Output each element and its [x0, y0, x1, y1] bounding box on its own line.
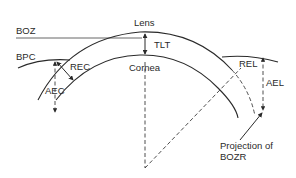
label-ael: AEL	[266, 77, 284, 88]
label-aec: AEC	[45, 85, 65, 96]
label-lens: Lens	[134, 17, 155, 28]
label-tlt: TLT	[154, 39, 170, 50]
contact-lens-diagram: BOZ BPC Lens TLT Cornea REC AEC REL AEL …	[0, 0, 296, 178]
label-rec: REC	[70, 61, 90, 72]
label-projection-line1: Projection of	[220, 140, 273, 151]
projection-pointer	[240, 113, 262, 140]
label-bpc: BPC	[16, 51, 36, 62]
label-cornea: Cornea	[129, 62, 161, 73]
bozr-projection-arc	[232, 70, 255, 116]
label-rel: REL	[239, 58, 257, 69]
label-projection-line2: BOZR	[220, 151, 247, 162]
label-boz: BOZ	[16, 25, 36, 36]
